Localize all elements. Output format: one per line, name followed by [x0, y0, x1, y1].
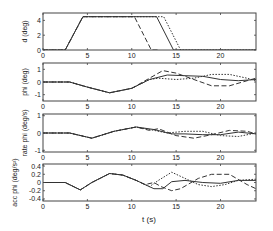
y-tick-label: -1 — [35, 91, 41, 98]
figure: 05101520024d (deg)05101520-101phi (deg)0… — [0, 0, 273, 231]
x-axis-label: t (s) — [142, 215, 156, 224]
series-group — [43, 71, 256, 93]
y-tick-label: 1 — [37, 66, 41, 73]
series-group — [43, 17, 256, 50]
y-tick-label: 0.4 — [31, 163, 41, 170]
x-tick-label: 20 — [217, 103, 225, 110]
series-group — [43, 127, 256, 138]
subplot-2: 05101520-101phi (deg) — [21, 63, 256, 110]
line-dashed — [43, 174, 256, 191]
line-dotted — [43, 17, 256, 50]
x-tick-label: 5 — [85, 154, 89, 161]
x-tick-label: 0 — [41, 103, 45, 110]
axes-box — [43, 63, 256, 101]
y-tick-label: 0 — [37, 130, 41, 137]
line-dashed — [43, 71, 256, 93]
x-tick-label: 0 — [41, 52, 45, 59]
x-tick-label: 5 — [85, 203, 89, 210]
x-tick-label: 5 — [85, 103, 89, 110]
x-tick-label: 10 — [128, 52, 136, 59]
y-tick-label: 0 — [37, 179, 41, 186]
series-group — [43, 172, 256, 191]
line-solid — [43, 127, 256, 138]
x-tick-label: 15 — [172, 103, 180, 110]
x-tick-label: 10 — [128, 154, 136, 161]
y-tick-label: -0.2 — [29, 187, 41, 194]
x-tick-label: 15 — [172, 203, 180, 210]
x-tick-label: 15 — [172, 154, 180, 161]
x-tick-label: 15 — [172, 52, 180, 59]
x-tick-label: 10 — [128, 203, 136, 210]
x-tick-label: 10 — [128, 103, 136, 110]
x-tick-label: 0 — [41, 203, 45, 210]
y-tick-label: 2 — [37, 32, 41, 39]
y-tick-label: 4 — [37, 17, 41, 24]
y-axis-label: rate phi (deg/s) — [21, 109, 29, 156]
y-tick-label: 0 — [37, 47, 41, 54]
x-tick-label: 5 — [85, 52, 89, 59]
axes-box — [43, 114, 256, 152]
y-tick-label: 0.2 — [31, 171, 41, 178]
y-tick-label: 0 — [37, 79, 41, 86]
subplot-4: 05101520-0.4-0.200.20.4acc phi (deg/s²) — [11, 158, 256, 210]
y-axis-label: acc phi (deg/s²) — [11, 158, 19, 206]
x-tick-label: 0 — [41, 154, 45, 161]
y-tick-label: -1 — [35, 147, 41, 154]
y-axis-label: phi (deg) — [21, 68, 29, 96]
y-axis-label: d (deg) — [21, 20, 29, 42]
x-tick-label: 20 — [217, 203, 225, 210]
subplot-1: 05101520024d (deg) — [21, 13, 256, 59]
line-solid — [43, 17, 256, 50]
x-tick-label: 20 — [217, 154, 225, 161]
line-dotted — [43, 172, 256, 190]
subplot-3: 05101520-101rate phi (deg/s) — [21, 109, 256, 161]
y-tick-label: -0.4 — [29, 195, 41, 202]
x-tick-label: 20 — [217, 52, 225, 59]
line-dashed — [43, 17, 158, 50]
y-tick-label: 1 — [37, 112, 41, 119]
